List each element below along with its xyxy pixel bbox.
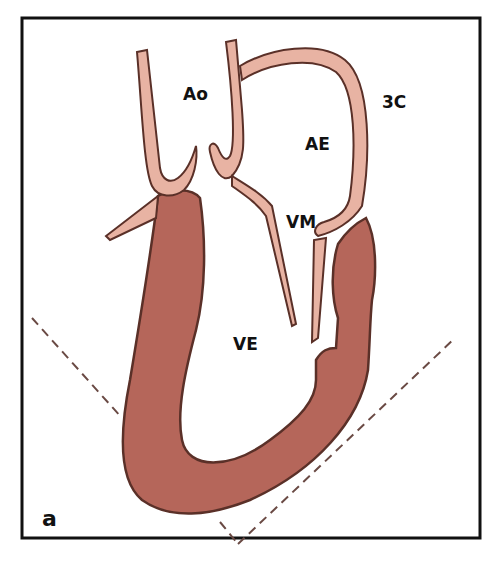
label-3c: 3C	[382, 92, 406, 112]
posterior-mitral-leaflet	[312, 238, 326, 342]
heart-diagram: Ao AE 3C VM VE a	[0, 0, 495, 562]
aorta-wall-right	[210, 40, 244, 178]
label-ve: VE	[233, 334, 258, 354]
label-ao: Ao	[183, 84, 208, 104]
anterior-mitral-leaflet	[232, 176, 296, 326]
label-vm: VM	[286, 212, 316, 232]
aorta-wall	[137, 50, 197, 196]
label-ae: AE	[305, 134, 330, 154]
panel-label: a	[42, 506, 57, 531]
left-vessel-branch	[106, 196, 158, 240]
